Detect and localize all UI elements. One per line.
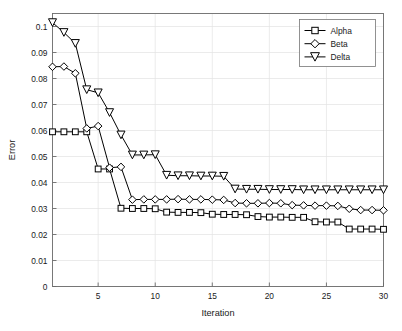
marker-square [324, 219, 330, 225]
marker-square [278, 214, 284, 220]
marker-square [369, 226, 375, 232]
marker-square [209, 211, 215, 217]
marker-diamond [49, 63, 57, 71]
marker-diamond [209, 196, 217, 204]
x-tick-label: 5 [96, 291, 101, 301]
y-tick-label: 0.04 [31, 178, 48, 188]
x-tick-label: 15 [208, 291, 218, 301]
marker-diamond [266, 199, 274, 207]
y-tick-label: 0.1 [36, 22, 48, 32]
legend: AlphaBetaDelta [300, 20, 376, 67]
marker-triangle-down [71, 40, 79, 48]
marker-square [346, 226, 352, 232]
marker-diamond [117, 163, 125, 171]
marker-square [312, 219, 318, 225]
marker-diamond [151, 196, 159, 204]
y-tick-label: 0.02 [31, 230, 48, 240]
x-tick-label: 25 [322, 291, 332, 301]
marker-square [50, 129, 56, 135]
marker-square [289, 214, 295, 220]
marker-diamond [380, 207, 388, 215]
marker-diamond [357, 206, 365, 214]
y-tick-label: 0 [43, 282, 48, 292]
marker-triangle-down [117, 131, 125, 139]
marker-square [266, 214, 272, 220]
y-tick-label: 0.01 [31, 256, 48, 266]
marker-diamond [94, 122, 102, 130]
marker-square [255, 214, 261, 220]
marker-diamond [368, 206, 376, 214]
marker-square [141, 206, 147, 212]
marker-square [72, 129, 78, 135]
marker-diamond [163, 196, 171, 204]
series-alpha [50, 129, 387, 232]
x-tick-label: 30 [379, 291, 389, 301]
marker-square [61, 129, 67, 135]
marker-diamond [243, 200, 251, 208]
marker-square [312, 27, 318, 33]
y-tick-label: 0.05 [31, 152, 48, 162]
series-line [53, 132, 384, 230]
marker-square [152, 206, 158, 212]
y-tick-label: 0.08 [31, 74, 48, 84]
y-axis-title: Error [7, 140, 17, 160]
x-tick-label: 10 [151, 291, 161, 301]
marker-square [232, 212, 238, 218]
y-tick-label: 0.07 [31, 100, 48, 110]
x-tick-label: 20 [265, 291, 275, 301]
marker-diamond [220, 196, 228, 204]
marker-diamond [197, 196, 205, 204]
marker-square [381, 226, 387, 232]
legend-label: Alpha [331, 26, 353, 36]
marker-diamond [140, 196, 148, 204]
marker-diamond [277, 200, 285, 208]
marker-square [198, 210, 204, 216]
marker-diamond [60, 63, 68, 71]
marker-diamond [345, 205, 353, 213]
marker-diamond [288, 201, 296, 209]
marker-diamond [300, 202, 308, 210]
marker-square [118, 205, 124, 211]
chart-figure: 00.010.020.030.040.050.060.070.080.090.1… [0, 0, 402, 331]
marker-diamond [129, 196, 137, 204]
marker-triangle-down [83, 86, 91, 94]
marker-diamond [231, 199, 239, 207]
y-tick-label: 0.09 [31, 48, 48, 58]
marker-square [244, 212, 250, 218]
marker-diamond [72, 70, 80, 78]
marker-square [335, 219, 341, 225]
marker-diamond [254, 200, 262, 208]
marker-triangle-down [94, 89, 102, 97]
marker-square [221, 212, 227, 218]
series-line [53, 67, 384, 211]
marker-square [164, 209, 170, 215]
marker-triangle-down [106, 109, 114, 117]
chart-canvas: 00.010.020.030.040.050.060.070.080.090.1… [0, 0, 402, 331]
y-tick-label: 0.06 [31, 126, 48, 136]
marker-square [301, 214, 307, 220]
marker-square [187, 210, 193, 216]
y-tick-label: 0.03 [31, 204, 48, 214]
marker-diamond [174, 195, 182, 203]
marker-square [358, 226, 364, 232]
legend-label: Delta [331, 52, 351, 62]
marker-square [175, 210, 181, 216]
marker-diamond [186, 196, 194, 204]
legend-label: Beta [331, 39, 349, 49]
marker-square [129, 206, 135, 212]
x-axis-title: Iteration [201, 308, 234, 318]
marker-square [95, 166, 101, 172]
